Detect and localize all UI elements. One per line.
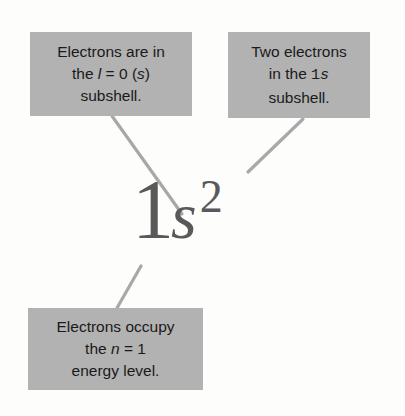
callout-energy-level-line-1: Electrons occupy xyxy=(56,316,174,338)
callout-two-electrons: Two electrons in the 1s subshell. xyxy=(228,32,370,118)
callout-two-electrons-line-2: in the 1s xyxy=(269,63,329,86)
callout-energy-level-line-2-prefix: the xyxy=(85,340,111,357)
callout-energy-level-line-3: energy level. xyxy=(72,360,160,382)
callout-subshell-l-line-2: the l = 0 (s) xyxy=(72,63,150,85)
callout-subshell-l-line-1: Electrons are in xyxy=(57,41,165,63)
callout-subshell-l-line-3: subshell. xyxy=(80,85,141,107)
callout-energy-level-line-2: the n = 1 xyxy=(85,338,146,360)
electron-configuration-diagram: 1s2 Electrons are in the l = 0 (s) subsh… xyxy=(0,0,405,416)
callout-subshell-l: Electrons are in the l = 0 (s) subshell. xyxy=(30,32,192,116)
callout-subshell-l-line-2-mid: = 0 ( xyxy=(101,65,137,82)
connector-energy-level-to-one xyxy=(117,266,141,308)
callout-two-electrons-line-2-prefix: in the xyxy=(269,65,311,82)
callout-energy-level-line-2-mid: = 1 xyxy=(120,340,146,357)
subshell-term-number: 1 xyxy=(311,67,320,84)
connector-two-electrons-to-exponent xyxy=(248,119,303,172)
callout-two-electrons-line-1: Two electrons xyxy=(251,41,347,63)
subshell-letter: s xyxy=(171,179,197,252)
callout-energy-level: Electrons occupy the n = 1 energy level. xyxy=(28,308,203,390)
callout-subshell-l-line-2-prefix: the xyxy=(72,65,98,82)
callout-two-electrons-line-3: subshell. xyxy=(268,87,329,109)
quantum-number-n-symbol: n xyxy=(111,340,120,357)
callout-subshell-l-line-2-suffix: ) xyxy=(145,65,150,82)
principal-quantum-number: 1 xyxy=(132,163,173,256)
subshell-term-1s: 1s xyxy=(311,67,329,84)
electron-count-superscript: 2 xyxy=(200,171,223,222)
subshell-term-letter: s xyxy=(320,67,329,84)
subshell-s-symbol: s xyxy=(137,65,145,82)
electron-configuration-notation: 1s2 xyxy=(132,168,220,252)
